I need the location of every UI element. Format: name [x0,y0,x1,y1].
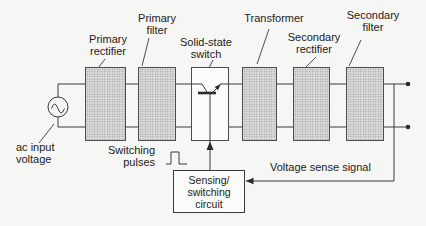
block-diagram-canvas: Sensing/ switching circuit Primary [0,0,426,226]
output-terminal-dot-top [406,82,411,87]
label-primary-filter-line2: filter [147,24,168,36]
label-ac-input-line2: voltage [16,153,51,165]
pulse-waveform-icon [166,152,187,164]
label-ac-input-line1: ac input [16,141,55,153]
transistor-icon [191,84,229,93]
label-switching-pulses-line1: Switching [108,144,155,156]
label-primary-rectifier-line2: rectifier [90,45,126,57]
label-primary-filter: Primary filter [127,13,187,36]
label-solid-state-switch-line2: switch [191,48,222,60]
label-secondary-filter-line2: filter [363,21,384,33]
label-secondary-filter: Secondary filter [343,10,403,33]
label-voltage-sense-signal-text: Voltage sense signal [270,161,371,173]
output-terminal-dot-bottom [406,125,411,130]
label-switching-pulses: Switching pulses [95,145,155,168]
label-ac-input-voltage: ac input voltage [16,142,76,165]
label-primary-rectifier: Primary rectifier [78,34,138,57]
label-solid-state-switch: Solid-state switch [176,37,236,60]
label-solid-state-switch-line1: Solid-state [180,36,232,48]
control-arrow-icon [207,142,214,151]
label-transformer-line1: Transformer [244,12,304,24]
symbols-overlay [0,0,426,226]
label-primary-rectifier-line1: Primary [89,33,127,45]
label-transformer: Transformer [234,13,314,25]
label-voltage-sense-signal: Voltage sense signal [270,162,371,174]
sense-arrow-icon [246,178,254,184]
label-secondary-rectifier-line2: rectifier [296,43,332,55]
label-primary-filter-line1: Primary [138,12,176,24]
label-secondary-filter-line1: Secondary [347,9,400,21]
label-secondary-rectifier-line1: Secondary [288,31,341,43]
label-switching-pulses-line2: pulses [123,156,155,168]
label-secondary-rectifier: Secondary rectifier [284,32,344,55]
